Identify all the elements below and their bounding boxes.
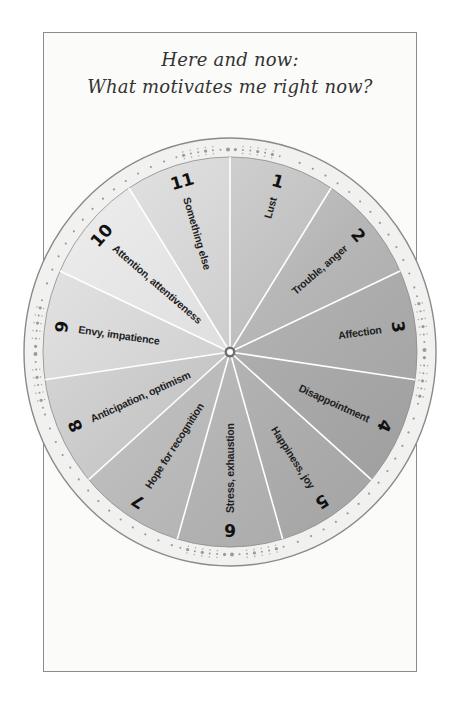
ring-dot — [73, 230, 75, 232]
ring-dot — [150, 166, 152, 168]
ring-dot — [337, 182, 339, 184]
ring-dot — [144, 533, 146, 535]
ring-dot — [113, 188, 115, 190]
ring-dot — [359, 200, 361, 202]
ring-dot — [87, 490, 89, 492]
ring-dot — [408, 272, 410, 274]
ring-dot — [55, 441, 57, 443]
ring-dot — [157, 539, 159, 541]
ring-dot — [120, 518, 122, 520]
ring-dot — [82, 219, 84, 221]
ring-dot — [65, 242, 67, 244]
ring-dot — [163, 160, 165, 162]
ring-dot — [58, 255, 60, 257]
ring-dot — [368, 493, 370, 495]
ring-dot — [49, 427, 51, 429]
ring-dot — [335, 521, 337, 523]
ring-dot — [348, 191, 350, 193]
ring-dot — [378, 482, 380, 484]
ring-dot — [323, 528, 325, 530]
ring-dot — [413, 418, 415, 420]
ring-dot — [297, 541, 299, 543]
ring-dot — [51, 269, 53, 271]
ring-dot — [358, 503, 360, 505]
ring-dot — [132, 526, 134, 528]
ring-dot — [299, 162, 301, 164]
ring-dot — [347, 512, 349, 514]
ring-dot — [46, 282, 48, 284]
motivation-wheel: 1Lust2Trouble, anger3Affection4Disappoin… — [0, 0, 460, 701]
ring-dot — [310, 535, 312, 537]
ring-dot — [387, 234, 389, 236]
ring-dot — [402, 259, 404, 261]
ring-dot — [91, 208, 93, 210]
ring-dot — [69, 467, 71, 469]
ring-dot — [395, 246, 397, 248]
ring-dot — [78, 478, 80, 480]
ring-dot — [171, 544, 173, 546]
ring-dot — [401, 445, 403, 447]
ring-dot — [413, 286, 415, 288]
ring-dot — [125, 180, 127, 182]
hub-inner — [227, 349, 233, 355]
ring-dot — [324, 175, 326, 177]
ring-dot — [108, 510, 110, 512]
ring-dot — [44, 414, 46, 416]
ring-dot — [312, 168, 314, 170]
ring-dot — [369, 211, 371, 213]
ring-dot — [386, 470, 388, 472]
ring-dot — [102, 198, 104, 200]
ring-dot — [407, 431, 409, 433]
segment-label-6: Stress, exhaustion — [224, 423, 236, 513]
ring-dot — [97, 500, 99, 502]
center-hub — [225, 347, 236, 358]
ring-dot — [137, 172, 139, 174]
segment-number-6: 6 — [224, 520, 236, 540]
ring-dot — [379, 222, 381, 224]
ring-dot — [394, 458, 396, 460]
ring-dot — [62, 454, 64, 456]
